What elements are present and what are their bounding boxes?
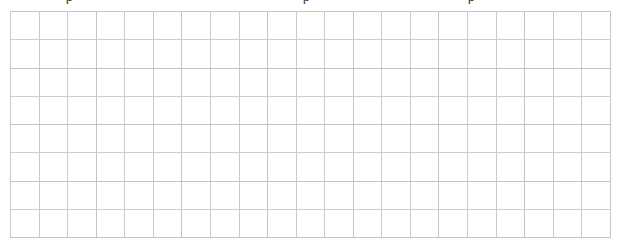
grid-cell[interactable] [210,12,239,40]
grid-cell[interactable] [68,68,97,96]
grid-cell[interactable] [39,12,68,40]
worksheet-grid[interactable] [10,11,610,237]
grid-cell[interactable] [39,153,68,181]
grid-cell[interactable] [325,68,354,96]
grid-cell[interactable] [125,153,154,181]
grid-cell[interactable] [410,40,439,68]
grid-cell[interactable] [325,181,354,209]
grid-cell[interactable] [353,181,382,209]
grid-cell[interactable] [525,40,554,68]
grid-cell[interactable] [353,40,382,68]
table-row[interactable] [11,68,611,96]
table-row[interactable] [11,12,611,40]
grid-cell[interactable] [239,209,268,237]
grid-cell[interactable] [296,153,325,181]
grid-cell[interactable] [11,40,40,68]
grid-cell[interactable] [96,40,125,68]
grid-cell[interactable] [210,68,239,96]
grid-cell[interactable] [525,181,554,209]
grid-cell[interactable] [125,40,154,68]
grid-cell[interactable] [96,181,125,209]
grid-cell[interactable] [553,153,582,181]
grid-cell[interactable] [325,96,354,124]
grid-cell[interactable] [39,125,68,153]
grid-cell[interactable] [96,96,125,124]
grid-cell[interactable] [268,40,297,68]
grid-cell[interactable] [39,68,68,96]
grid-cell[interactable] [582,125,611,153]
grid-cell[interactable] [11,209,40,237]
grid-cell[interactable] [296,125,325,153]
grid-cell[interactable] [239,68,268,96]
grid-cell[interactable] [268,181,297,209]
grid-cell[interactable] [439,209,468,237]
grid-cell[interactable] [468,125,497,153]
grid-cell[interactable] [182,181,211,209]
grid-cell[interactable] [439,181,468,209]
grid-cell[interactable] [439,153,468,181]
grid-cell[interactable] [96,12,125,40]
grid-cell[interactable] [382,40,411,68]
grid-cell[interactable] [325,125,354,153]
grid-cell[interactable] [496,153,525,181]
grid-table[interactable] [10,11,611,238]
grid-cell[interactable] [210,153,239,181]
grid-cell[interactable] [68,40,97,68]
grid-cell[interactable] [325,153,354,181]
grid-cell[interactable] [382,96,411,124]
grid-cell[interactable] [582,209,611,237]
grid-cell[interactable] [68,181,97,209]
grid-cell[interactable] [268,209,297,237]
grid-cell[interactable] [68,12,97,40]
grid-cell[interactable] [39,181,68,209]
grid-cell[interactable] [553,181,582,209]
grid-cell[interactable] [582,68,611,96]
grid-cell[interactable] [239,40,268,68]
grid-cell[interactable] [11,125,40,153]
grid-cell[interactable] [96,209,125,237]
grid-cell[interactable] [210,209,239,237]
grid-cell[interactable] [182,96,211,124]
grid-cell[interactable] [553,12,582,40]
grid-cell[interactable] [496,12,525,40]
grid-cell[interactable] [153,12,182,40]
grid-cell[interactable] [296,181,325,209]
grid-cell[interactable] [468,209,497,237]
grid-cell[interactable] [468,181,497,209]
grid-cell[interactable] [382,68,411,96]
grid-cell[interactable] [468,153,497,181]
grid-cell[interactable] [468,40,497,68]
grid-cell[interactable] [582,12,611,40]
grid-cell[interactable] [353,125,382,153]
grid-cell[interactable] [353,96,382,124]
grid-cell[interactable] [268,12,297,40]
grid-cell[interactable] [153,181,182,209]
grid-cell[interactable] [525,153,554,181]
grid-cell[interactable] [410,181,439,209]
grid-cell[interactable] [268,125,297,153]
grid-cell[interactable] [153,209,182,237]
grid-cell[interactable] [96,153,125,181]
grid-cell[interactable] [553,96,582,124]
grid-cell[interactable] [268,153,297,181]
grid-cell[interactable] [11,181,40,209]
grid-cell[interactable] [496,125,525,153]
grid-cell[interactable] [525,68,554,96]
grid-cell[interactable] [239,96,268,124]
grid-cell[interactable] [210,181,239,209]
grid-cell[interactable] [325,40,354,68]
grid-cell[interactable] [68,125,97,153]
grid-cell[interactable] [325,12,354,40]
grid-cell[interactable] [210,40,239,68]
grid-cell[interactable] [439,68,468,96]
grid-cell[interactable] [182,125,211,153]
grid-cell[interactable] [553,68,582,96]
grid-cell[interactable] [68,209,97,237]
grid-cell[interactable] [182,12,211,40]
grid-cell[interactable] [11,68,40,96]
grid-cell[interactable] [439,125,468,153]
grid-cell[interactable] [410,12,439,40]
table-row[interactable] [11,209,611,237]
table-row[interactable] [11,181,611,209]
grid-cell[interactable] [496,209,525,237]
